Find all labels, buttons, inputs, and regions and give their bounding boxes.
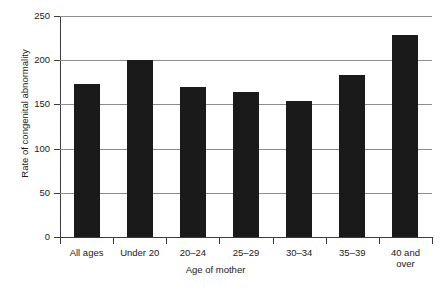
x-tick-mark: [326, 238, 327, 244]
x-axis-title: Age of mother: [186, 264, 246, 275]
x-tick-mark: [60, 238, 61, 244]
y-tick-label: 200: [6, 55, 50, 65]
bar: [74, 84, 100, 237]
gridline: [60, 16, 432, 17]
y-tick-label: 50: [6, 188, 50, 198]
gridline: [60, 60, 432, 61]
x-tick-mark: [219, 238, 220, 244]
bar: [180, 87, 206, 237]
x-tick-label-line: 40 and: [374, 247, 436, 258]
bar: [392, 35, 418, 237]
y-axis-title: Rate of congenital abnormality: [19, 14, 30, 214]
y-tick-label: 150: [6, 99, 50, 109]
bar: [127, 60, 153, 237]
x-tick-mark: [166, 238, 167, 244]
y-tick-label: 100: [6, 144, 50, 154]
y-tick-label: 0: [6, 232, 50, 242]
plot-area: [60, 16, 432, 237]
y-tick-label: 250: [6, 11, 50, 21]
x-tick-mark: [273, 238, 274, 244]
x-axis-title-wrap: Age of mother: [0, 264, 443, 275]
x-tick-mark: [113, 238, 114, 244]
x-tick-mark: [432, 238, 433, 244]
bar: [233, 92, 259, 237]
bar-chart: Rate of congenital abnormality 050100150…: [0, 0, 443, 296]
gridline: [60, 237, 432, 238]
bar: [339, 75, 365, 237]
x-tick-mark: [379, 238, 380, 244]
bar: [286, 101, 312, 237]
